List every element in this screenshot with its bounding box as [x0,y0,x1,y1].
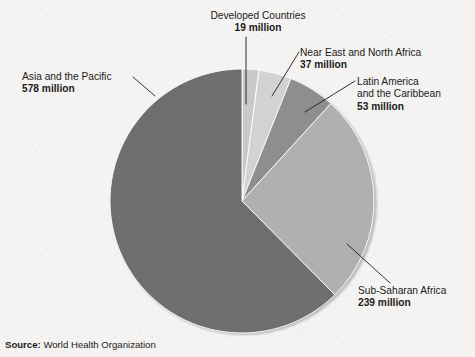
callout-near-east-label: Near East and North Africa [300,47,421,59]
callout-near-east-and-north-africa: Near East and North Africa 37 million [300,47,421,72]
callout-sub-saharan-africa: Sub-Saharan Africa 239 million [358,285,446,310]
leader-line-asia-pacific [133,77,155,96]
callout-latin-america-and-the-caribbean: Latin America and the Caribbean 53 milli… [357,76,441,113]
callout-sub-saharan-africa-label: Sub-Saharan Africa [358,285,446,297]
callout-developed-countries-label: Developed Countries [196,10,320,22]
callout-latin-america-label-line1: Latin America [357,76,441,88]
callout-asia-pacific-value: 578 million [22,83,111,95]
callout-developed-countries: Developed Countries 19 million [196,10,320,35]
callout-asia-and-the-pacific: Asia and the Pacific 578 million [22,71,111,96]
pie-chart-figure: Developed Countries 19 million Near East… [0,0,475,357]
callout-asia-pacific-label: Asia and the Pacific [22,71,111,83]
callout-near-east-value: 37 million [300,59,421,71]
callout-latin-america-label-line2: and the Caribbean [357,88,441,100]
callout-sub-saharan-africa-value: 239 million [358,297,446,309]
pie-slices [110,69,374,333]
source-label: Source: [5,339,41,350]
callout-developed-countries-value: 19 million [196,22,320,34]
source-note: Source: World Health Organization [5,339,156,350]
callout-latin-america-value: 53 million [357,101,441,113]
source-value: World Health Organization [43,339,155,350]
